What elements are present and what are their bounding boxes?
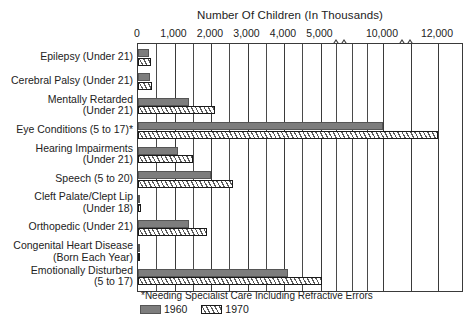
legend-swatch-1960 xyxy=(140,305,161,314)
gridline-12000 xyxy=(438,44,439,291)
x-tick-label-10000: 10,000 xyxy=(366,27,398,39)
bar-1970-7 xyxy=(138,228,207,236)
legend-swatch-1970 xyxy=(201,305,222,314)
gridline-6250 xyxy=(336,44,337,291)
bar-1970-1 xyxy=(138,82,152,90)
bar-chart: Number Of Children (In Thousands) 01,000… xyxy=(0,0,467,325)
bar-1960-6 xyxy=(138,195,140,203)
plot-area xyxy=(137,43,463,292)
bar-1970-6 xyxy=(138,204,141,212)
chart-legend: 1960 1970 xyxy=(140,303,249,315)
gridline-2000 xyxy=(211,44,212,291)
category-label-9: Emotionally Disturbed (5 to 17) xyxy=(0,265,133,288)
category-label-0: Epilepsy (Under 21) xyxy=(0,51,133,63)
x-tick-label-4000: 4,000 xyxy=(270,27,296,39)
x-tick-label-5000: 5,000 xyxy=(306,27,332,39)
legend-label-1970: 1970 xyxy=(225,303,248,315)
gridline-8750 xyxy=(367,44,368,291)
gridline-2500 xyxy=(229,44,230,291)
gridline-500 xyxy=(156,44,157,291)
gridline-1000 xyxy=(175,44,176,291)
gridline-7500 xyxy=(352,44,353,291)
chart-footnote: *Needing Specialist Care Including Refra… xyxy=(141,290,373,301)
bar-1960-3 xyxy=(138,122,383,130)
bar-1970-0 xyxy=(138,58,151,66)
gridline-4500 xyxy=(302,44,303,291)
bar-1960-4 xyxy=(138,147,178,155)
category-label-2: Mentally Retarded (Under 21) xyxy=(0,94,133,117)
bar-1960-1 xyxy=(138,73,150,81)
bar-1960-5 xyxy=(138,171,211,179)
category-label-8: Congenital Heart Disease (Born Each Year… xyxy=(0,240,133,263)
gridline-1500 xyxy=(193,44,194,291)
x-tick-label-2000: 2,000 xyxy=(197,27,223,39)
bar-1970-2 xyxy=(138,106,215,114)
bar-1960-2 xyxy=(138,98,189,106)
bar-1960-0 xyxy=(138,49,149,57)
category-label-7: Orthopedic (Under 21) xyxy=(0,221,133,233)
bar-1970-3 xyxy=(138,131,438,139)
gridline-5000 xyxy=(321,44,322,291)
category-label-3: Eye Conditions (5 to 17)* xyxy=(0,124,133,136)
gridline-4000 xyxy=(284,44,285,291)
bar-1960-7 xyxy=(138,220,189,228)
category-label-4: Hearing Impairments (Under 21) xyxy=(0,143,133,166)
gridline-3000 xyxy=(248,44,249,291)
gridline-10000 xyxy=(383,44,384,291)
category-label-5: Speech (5 to 20) xyxy=(0,173,133,185)
bar-1960-8 xyxy=(138,244,140,252)
x-tick-label-1000: 1,000 xyxy=(160,27,186,39)
legend-item-1970: 1970 xyxy=(201,303,248,315)
category-label-6: Cleft Palate/Clept Lip (Under 18) xyxy=(0,191,133,214)
category-label-1: Cerebral Palsy (Under 21) xyxy=(0,75,133,87)
bar-1970-9 xyxy=(138,277,322,285)
gridline-3500 xyxy=(266,44,267,291)
bar-1970-8 xyxy=(138,253,140,261)
bar-1960-9 xyxy=(138,269,288,277)
x-tick-label-12000: 12,000 xyxy=(421,27,453,39)
bar-1970-4 xyxy=(138,155,193,163)
gridline-11000 xyxy=(411,44,412,291)
x-tick-label-0: 0 xyxy=(134,27,140,39)
x-tick-label-3000: 3,000 xyxy=(233,27,259,39)
legend-label-1960: 1960 xyxy=(164,303,187,315)
chart-title: Number Of Children (In Thousands) xyxy=(175,9,405,21)
bar-1970-5 xyxy=(138,180,233,188)
legend-item-1960: 1960 xyxy=(140,303,197,315)
